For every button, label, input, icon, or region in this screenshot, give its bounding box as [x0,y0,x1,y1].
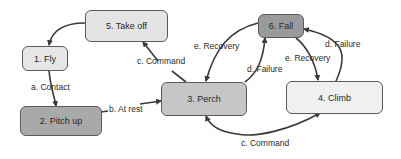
edge-label-command-climb: c. Command [241,138,289,148]
node-fly: 1. Fly [22,46,68,71]
node-take-off: 5. Take off [85,10,168,42]
edge-label-at-rest: b. At rest [109,104,143,114]
node-pitch-up-label: 2. Pitch up [40,116,83,126]
edge-label-recovery-perch: e. Recovery [194,41,239,51]
edge-perch-climb [237,113,320,135]
edge-label-contact: a. Contact [31,82,70,92]
node-perch-label: 3. Perch [187,94,221,104]
node-fly-label: 1. Fly [34,54,56,64]
node-climb: 4. Climb [286,81,383,114]
edge-label-command-takeoff: c. Command [137,56,185,66]
edge-label-failure-perch: d. Failure [247,64,282,74]
state-diagram: 5. Take off 1. Fly 2. Pitch up 3. Perch … [0,0,401,159]
edge-takeoff-fly [49,23,85,45]
edge-label-failure-climb: d. Failure [325,39,360,49]
edge-climb-perch [206,116,237,134]
node-climb-label: 4. Climb [318,93,351,103]
node-perch: 3. Perch [161,82,247,116]
edge-perch-fall [245,38,265,82]
node-pitch-up: 2. Pitch up [20,106,102,136]
node-fall: 6. Fall [258,14,304,38]
edge-label-recovery-climb: e. Recovery [285,53,330,63]
node-fall-label: 6. Fall [269,21,294,31]
node-take-off-label: 5. Take off [106,21,147,31]
